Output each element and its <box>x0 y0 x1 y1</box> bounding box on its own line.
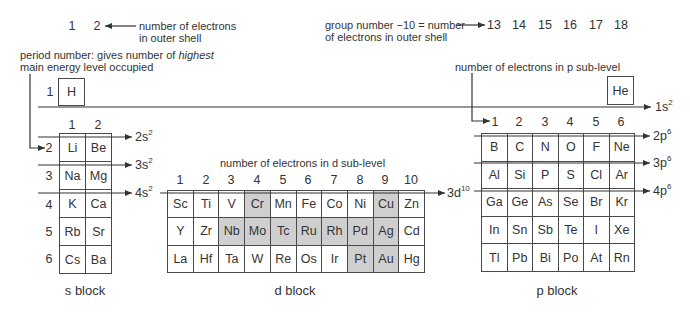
element-cell: Y <box>168 218 193 244</box>
orbital-superscript: 10 <box>461 184 470 193</box>
period-number-arrow-icon <box>30 74 45 148</box>
element-cell: Se <box>559 189 584 216</box>
d-block-column-header: 9 <box>382 173 389 187</box>
period-number: 5 <box>46 225 53 239</box>
element-cell: Sr <box>86 218 111 245</box>
orbital-superscript: 6 <box>667 182 671 191</box>
element-cell: Na <box>60 162 85 189</box>
orbital-label-4p: 4p6 <box>653 184 671 198</box>
annotation-line: in outer shell <box>139 32 236 44</box>
element-cell: Tl <box>482 244 507 271</box>
orbital-base: 4s <box>135 186 148 200</box>
element-cell: Pt <box>348 246 373 272</box>
element-cell: Hf <box>194 246 219 272</box>
annotation-line: group number −10 = number <box>325 19 465 31</box>
orbital-label-2p: 2p6 <box>653 129 671 143</box>
d-block-column-header: 3 <box>228 173 235 187</box>
orbital-superscript: 2 <box>148 128 152 137</box>
element-cell: S <box>559 162 584 189</box>
outer-shell-group-2: 2 <box>94 19 101 33</box>
annotation-emphasis: highest <box>178 49 213 61</box>
element-cell: Si <box>508 162 533 189</box>
group-number: 14 <box>512 18 526 32</box>
annotation-line: of electrons in outer shell <box>325 31 465 43</box>
orbital-label-3s: 3s2 <box>135 158 153 172</box>
element-cell: Ni <box>348 191 373 217</box>
element-cell: Sc <box>168 191 193 217</box>
element-cell: Li <box>60 134 85 161</box>
element-cell: Co <box>322 191 347 217</box>
element-cell: Cl <box>584 162 609 189</box>
element-cell: Al <box>482 162 507 189</box>
p-block-column-header: 4 <box>567 115 574 129</box>
outer-shell-annotation: number of electrons in outer shell <box>139 20 236 44</box>
period-number: 6 <box>46 252 53 266</box>
element-cell: Ca <box>86 190 111 217</box>
s-block-column-header: 2 <box>95 118 102 132</box>
outer-shell-group-1: 1 <box>69 19 76 33</box>
element-cell: Ru <box>297 218 322 244</box>
element-cell: Rn <box>610 244 635 271</box>
period-number-1: 1 <box>47 85 54 99</box>
p-block-label: p block <box>536 284 577 298</box>
d-block-column-header: 4 <box>254 173 261 187</box>
element-cell: V <box>219 191 244 217</box>
d-block-column-header: 10 <box>404 173 418 187</box>
element-cell: Po <box>559 244 584 271</box>
d-sublevel-annotation: number of electrons in d sub-level <box>220 157 385 169</box>
d-block-label: d block <box>274 284 315 298</box>
orbital-base: 3p <box>653 156 667 170</box>
element-cell: O <box>559 134 584 161</box>
element-cell: Nb <box>219 218 244 244</box>
element-cell: Sb <box>533 217 558 244</box>
element-cell: I <box>584 217 609 244</box>
element-cell: Os <box>297 246 322 272</box>
orbital-superscript: 6 <box>667 154 671 163</box>
element-cell: Mo <box>245 218 270 244</box>
orbital-label-1s: 1s2 <box>655 100 673 114</box>
element-cell: Mn <box>271 191 296 217</box>
p-block-column-header: 6 <box>618 115 625 129</box>
element-cell: Br <box>584 189 609 216</box>
d-block-column-header: 1 <box>177 173 184 187</box>
p-sublevel-annotation: number of electrons in p sub-level <box>455 61 620 73</box>
element-cell-hydrogen: H <box>58 78 85 106</box>
element-cell: Tc <box>271 218 296 244</box>
orbital-label-3d: 3d10 <box>447 186 470 200</box>
s-block-grid: Li Be Na Mg K Ca Rb Sr Cs Ba <box>59 133 112 274</box>
annotation-line: main energy level occupied <box>20 61 214 73</box>
group-number-annotation: group number −10 = number of electrons i… <box>325 19 465 43</box>
element-cell: Pd <box>348 218 373 244</box>
p-block-column-header: 2 <box>516 115 523 129</box>
element-cell: Kr <box>610 189 635 216</box>
element-cell: Be <box>86 134 111 161</box>
period-number: 4 <box>46 198 53 212</box>
element-cell: Cu <box>374 191 399 217</box>
p-block-column-header: 3 <box>542 115 549 129</box>
s-block-label: s block <box>65 284 105 298</box>
element-cell: C <box>508 134 533 161</box>
element-cell: Te <box>559 217 584 244</box>
group-number: 13 <box>487 18 501 32</box>
element-cell: Mg <box>86 162 111 189</box>
d-block-column-header: 8 <box>357 173 364 187</box>
element-cell: W <box>245 246 270 272</box>
p-block-grid: B C N O F Ne Al Si P S Cl Ar Ga Ge As Se… <box>481 133 635 272</box>
p-block-column-header: 1 <box>492 115 499 129</box>
element-cell: Cs <box>60 246 85 273</box>
annotation-text: period number: gives number of <box>20 49 178 61</box>
d-block-grid: Sc Ti V Cr Mn Fe Co Ni Cu Zn Y Zr Nb Mo … <box>167 190 425 273</box>
element-cell: Pb <box>508 244 533 271</box>
orbital-superscript: 2 <box>668 98 672 107</box>
s-block-column-header: 1 <box>69 118 76 132</box>
element-cell: B <box>482 134 507 161</box>
annotation-line: period number: gives number of highest <box>20 49 214 61</box>
orbital-base: 3d <box>447 186 461 200</box>
p-block-column-header: 5 <box>593 115 600 129</box>
element-cell: Rb <box>60 218 85 245</box>
d-block-column-header: 6 <box>305 173 312 187</box>
element-cell: Ge <box>508 189 533 216</box>
element-cell: Ar <box>610 162 635 189</box>
element-cell: Ga <box>482 189 507 216</box>
element-cell: Ne <box>610 134 635 161</box>
